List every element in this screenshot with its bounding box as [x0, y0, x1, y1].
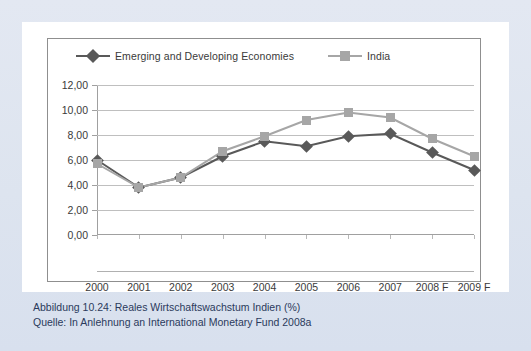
y-axis-label: 2,00 — [68, 204, 88, 216]
data-point-marker — [302, 116, 311, 125]
x-axis-tick — [139, 235, 140, 239]
figure-page: Emerging and Developing EconomiesIndia 0… — [0, 0, 531, 351]
caption-line-2: Quelle: In Anlehnung an International Mo… — [33, 315, 493, 330]
legend-item[interactable]: India — [328, 50, 390, 62]
data-point-marker — [176, 173, 185, 182]
x-axis-label: 2008 F — [416, 281, 449, 293]
y-axis-label: 12,00 — [62, 79, 88, 91]
x-axis-label: 2003 — [211, 281, 234, 293]
data-point-marker — [260, 132, 269, 141]
x-axis-tick — [223, 235, 224, 239]
y-axis-label: 6,00 — [68, 154, 88, 166]
y-axis-label: 8,00 — [68, 129, 88, 141]
plot-area: 0,002,004,006,008,0010,0012,002000200120… — [97, 85, 474, 235]
legend-item[interactable]: Emerging and Developing Economies — [76, 50, 294, 62]
x-axis-baseline — [97, 271, 474, 272]
x-axis-label: 2009 F — [458, 281, 491, 293]
legend-square-icon — [328, 50, 362, 62]
y-axis-label: 4,00 — [68, 179, 88, 191]
figure-caption: Abbildung 10.24: Reales Wirtschaftswachs… — [33, 300, 493, 329]
series-line — [97, 134, 474, 188]
x-axis-label: 2002 — [169, 281, 192, 293]
x-axis-label: 2007 — [379, 281, 402, 293]
chart-legend: Emerging and Developing EconomiesIndia — [48, 45, 480, 67]
x-axis-tick — [97, 235, 98, 239]
legend-diamond-icon — [76, 50, 110, 62]
x-axis-label: 2001 — [127, 281, 150, 293]
x-axis-tick — [390, 235, 391, 239]
x-axis-tick — [181, 235, 182, 239]
chart-frame: Emerging and Developing EconomiesIndia 0… — [47, 38, 481, 282]
data-point-marker — [218, 147, 227, 156]
series-lines — [97, 85, 474, 235]
legend-label: India — [367, 50, 390, 62]
y-axis-label: 0,00 — [68, 229, 88, 241]
x-axis-tick — [306, 235, 307, 239]
series-line — [97, 113, 474, 188]
data-point-marker — [134, 183, 143, 192]
x-axis-tick — [474, 235, 475, 239]
legend-label: Emerging and Developing Economies — [115, 50, 294, 62]
data-point-marker — [428, 134, 437, 143]
data-point-marker — [470, 152, 479, 161]
data-point-marker — [93, 159, 102, 168]
x-axis-label: 2000 — [85, 281, 108, 293]
x-axis-tick — [348, 235, 349, 239]
x-axis-label: 2004 — [253, 281, 276, 293]
chart-card: Emerging and Developing EconomiesIndia 0… — [22, 22, 509, 292]
data-point-marker — [386, 113, 395, 122]
caption-line-1: Abbildung 10.24: Reales Wirtschaftswachs… — [33, 300, 493, 315]
x-axis-label: 2006 — [337, 281, 360, 293]
x-axis-label: 2005 — [295, 281, 318, 293]
y-axis-label: 10,00 — [62, 104, 88, 116]
x-axis-tick — [432, 235, 433, 239]
data-point-marker — [344, 108, 353, 117]
x-axis-tick — [265, 235, 266, 239]
